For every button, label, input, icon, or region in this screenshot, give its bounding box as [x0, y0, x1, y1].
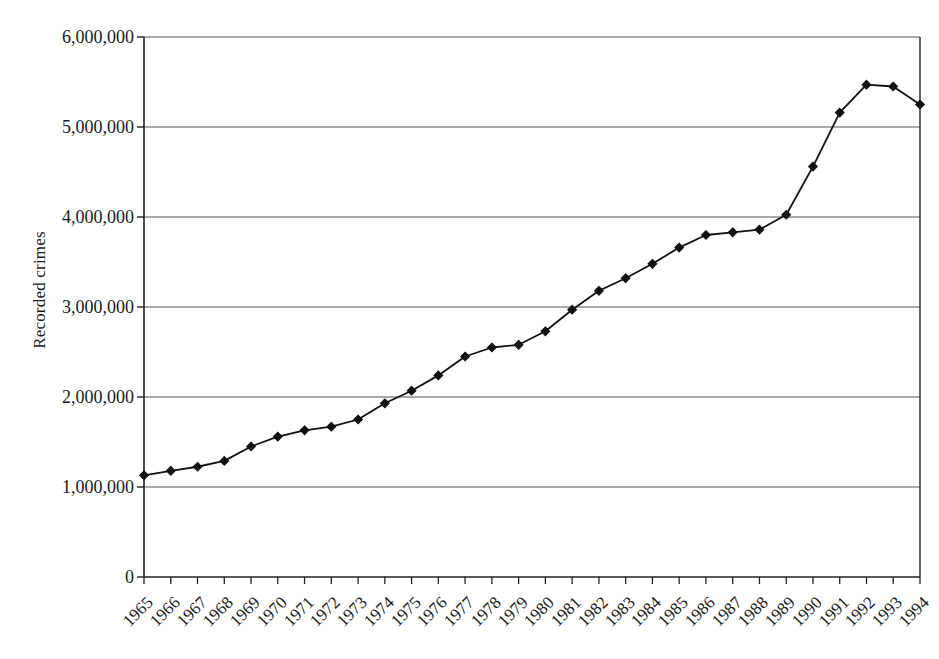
data-point-marker [755, 225, 764, 234]
data-point-marker [648, 260, 657, 269]
data-point-marker [220, 457, 229, 466]
data-point-marker [166, 467, 175, 476]
data-point-marker [273, 432, 282, 441]
data-point-marker [140, 471, 149, 480]
data-point-marker [728, 228, 737, 237]
data-point-marker [300, 426, 309, 435]
data-point-marker [193, 462, 202, 471]
data-point-marker [488, 343, 497, 352]
data-point-marker [621, 274, 630, 283]
data-line-recorded-crimes [144, 85, 920, 476]
chart-container: Recorded crimes 01,000,0002,000,0003,000… [0, 0, 939, 659]
plot-area [0, 0, 939, 659]
data-point-marker [514, 341, 523, 350]
data-point-marker [247, 442, 256, 451]
data-point-marker [675, 243, 684, 252]
data-point-marker [381, 399, 390, 408]
data-point-marker [809, 162, 818, 171]
data-point-marker [702, 231, 711, 240]
data-point-marker [354, 415, 363, 424]
data-point-marker [407, 386, 416, 395]
data-point-marker [327, 422, 336, 431]
data-point-marker [782, 210, 791, 219]
